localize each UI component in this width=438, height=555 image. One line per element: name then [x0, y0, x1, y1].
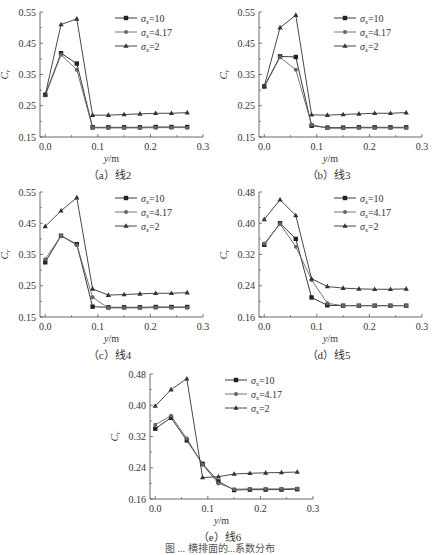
- circle-marker: [59, 234, 63, 238]
- circle-marker: [294, 245, 298, 249]
- circle-marker: [122, 306, 126, 310]
- y-tick-label: 0.55: [19, 187, 37, 198]
- circle-marker: [341, 126, 345, 130]
- legend: σx=10σx=4.17σx=2: [115, 193, 172, 233]
- y-axis-label: Cr: [0, 249, 12, 259]
- triangle-marker: [372, 286, 377, 291]
- y-tick-label: 0.25: [19, 100, 37, 111]
- x-tick-label: 0.1: [311, 321, 324, 332]
- circle-marker: [185, 436, 189, 440]
- circle-marker: [325, 301, 329, 305]
- circle-marker: [185, 126, 189, 130]
- y-tick-label: 0.48: [238, 187, 256, 198]
- chart-panel-1: 0.150.250.350.450.550.00.10.20.3y/mCrσx=…: [0, 0, 219, 180]
- x-tick-label: 0.3: [197, 321, 210, 332]
- x-tick-label: 0.1: [202, 503, 215, 514]
- legend-label: σx=2: [360, 41, 379, 53]
- figure-caption: 图 ... 横排面的...系数分布: [60, 540, 380, 555]
- series-circle: [262, 222, 408, 308]
- x-tick-label: 0.2: [363, 321, 376, 332]
- y-axis-label: Cr: [219, 69, 231, 79]
- legend: σx=10σx=4.17σx=2: [334, 13, 391, 53]
- square-marker: [343, 16, 347, 20]
- legend: σx=10σx=4.17σx=2: [334, 193, 391, 233]
- legend-label: σx=10: [251, 375, 275, 387]
- series-square: [262, 54, 408, 130]
- circle-marker: [216, 481, 220, 485]
- circle-marker: [169, 306, 173, 310]
- triangle-marker: [74, 195, 79, 200]
- y-tick-label: 0.40: [129, 400, 147, 411]
- axes: 0.160.240.320.400.480.00.10.20.3y/mCr: [219, 187, 428, 345]
- legend-label: σx=10: [360, 193, 384, 205]
- x-tick-label: 0.2: [144, 321, 157, 332]
- triangle-marker: [372, 110, 377, 115]
- triangle-marker: [74, 16, 79, 21]
- x-tick-label: 0.1: [92, 321, 105, 332]
- y-tick-label: 0.15: [238, 132, 256, 143]
- legend: σx=10σx=4.17σx=2: [225, 375, 282, 415]
- y-tick-label: 0.15: [19, 132, 37, 143]
- square-marker: [75, 61, 79, 65]
- x-tick-label: 0.0: [39, 141, 52, 152]
- circle-marker: [169, 126, 173, 130]
- y-tick-label: 0.35: [238, 69, 256, 80]
- circle-marker: [106, 306, 110, 310]
- square-marker: [124, 16, 128, 20]
- y-tick-label: 0.16: [129, 494, 147, 505]
- series-circle: [43, 234, 189, 310]
- y-axis-label: Cr: [0, 69, 12, 79]
- y-tick-label: 0.15: [19, 312, 37, 323]
- x-tick-label: 0.1: [311, 141, 324, 152]
- circle-marker: [154, 306, 158, 310]
- y-tick-label: 0.25: [238, 100, 256, 111]
- y-tick-label: 0.35: [19, 69, 37, 80]
- square-marker: [294, 55, 298, 59]
- triangle-marker: [123, 223, 128, 228]
- circle-marker: [278, 222, 282, 226]
- legend-label: σx=2: [360, 221, 379, 233]
- triangle-marker: [342, 43, 347, 48]
- legend-label: σx=2: [141, 41, 160, 53]
- triangle-marker: [233, 405, 238, 410]
- circle-marker: [341, 304, 345, 308]
- y-tick-label: 0.35: [19, 249, 37, 260]
- triangle-marker: [153, 110, 158, 115]
- triangle-marker: [90, 286, 95, 291]
- triangle-marker: [279, 470, 284, 475]
- axes: 0.150.250.350.450.550.00.10.20.3y/mCr: [219, 7, 428, 165]
- circle-marker: [75, 243, 79, 247]
- y-axis-label: Cr: [219, 249, 231, 259]
- triangle-marker: [168, 387, 173, 392]
- y-tick-label: 0.40: [238, 218, 256, 229]
- y-tick-label: 0.45: [19, 38, 37, 49]
- legend-label: σx=2: [141, 221, 160, 233]
- triangle-marker: [277, 25, 282, 30]
- circle-marker: [106, 126, 110, 130]
- x-tick-label: 0.2: [254, 503, 267, 514]
- circle-marker: [404, 304, 408, 308]
- y-tick-label: 0.24: [238, 280, 256, 291]
- circle-marker: [279, 487, 283, 491]
- triangle-marker: [404, 286, 409, 291]
- legend-label: σx=4.17: [251, 389, 282, 401]
- square-marker: [309, 295, 313, 299]
- x-tick-label: 0.3: [416, 321, 429, 332]
- circle-marker: [75, 68, 79, 72]
- triangle-marker: [247, 470, 252, 475]
- circle-marker: [262, 242, 266, 246]
- square-marker: [124, 196, 128, 200]
- square-marker: [294, 237, 298, 241]
- circle-marker: [138, 126, 142, 130]
- triangle-marker: [388, 286, 393, 291]
- chart-panel-4: 0.160.240.320.400.480.00.10.20.3y/mCrσx=…: [219, 180, 438, 360]
- circle-marker: [59, 53, 63, 57]
- x-axis-label: y/m: [322, 333, 338, 344]
- legend-label: σx=4.17: [360, 207, 391, 219]
- y-tick-label: 0.45: [238, 38, 256, 49]
- y-tick-label: 0.25: [19, 280, 37, 291]
- circle-marker: [169, 414, 173, 418]
- circle-marker: [373, 304, 377, 308]
- circle-marker: [91, 126, 95, 130]
- circle-marker: [373, 126, 377, 130]
